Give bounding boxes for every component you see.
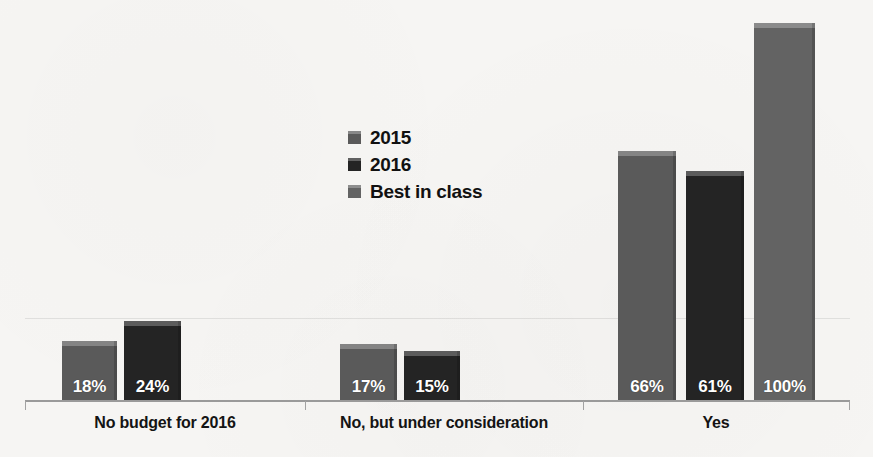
bar-value-label: 18% (62, 378, 117, 395)
bar-value-label: 100% (754, 378, 815, 395)
axis-tick-sep-2 (583, 401, 584, 410)
category-label-no-budget: No budget for 2016 (25, 414, 305, 432)
bar-value-label: 17% (340, 378, 397, 395)
chart-legend: 2015 2016 Best in class (348, 124, 482, 205)
axis-tick-sep-1 (305, 401, 306, 410)
legend-label: Best in class (370, 182, 482, 201)
legend-item-2016[interactable]: 2016 (348, 151, 482, 178)
bar-no-budget-2015[interactable]: 18% (62, 341, 117, 401)
bar-no-budget-2016[interactable]: 24% (124, 321, 181, 401)
legend-label: 2016 (370, 155, 411, 174)
bar-chart: 18% 24% 17% 15% 66% 61% 100% 2015 (0, 0, 873, 457)
bar-value-label: 24% (124, 378, 181, 395)
legend-item-2015[interactable]: 2015 (348, 124, 482, 151)
bar-value-label: 15% (404, 378, 460, 395)
legend-swatch-best-in-class-icon (348, 185, 361, 198)
category-label-under-consideration: No, but under consideration (305, 414, 583, 432)
category-axis (25, 400, 850, 402)
legend-label: 2015 (370, 128, 411, 147)
axis-tick-end (849, 401, 850, 410)
bar-yes-best-in-class[interactable]: 100% (754, 23, 815, 401)
legend-swatch-2016-icon (348, 158, 361, 171)
bar-under-consideration-2016[interactable]: 15% (404, 351, 460, 401)
bar-value-label: 61% (686, 378, 744, 395)
bar-value-label: 66% (618, 378, 676, 395)
bar-yes-2016[interactable]: 61% (686, 171, 744, 401)
legend-item-best-in-class[interactable]: Best in class (348, 178, 482, 205)
plot-area: 18% 24% 17% 15% 66% 61% 100% 2015 (0, 0, 873, 401)
category-label-yes: Yes (583, 414, 849, 432)
bar-under-consideration-2015[interactable]: 17% (340, 344, 397, 401)
bar-yes-2015[interactable]: 66% (618, 151, 676, 401)
legend-swatch-2015-icon (348, 131, 361, 144)
axis-tick-start (25, 401, 26, 410)
